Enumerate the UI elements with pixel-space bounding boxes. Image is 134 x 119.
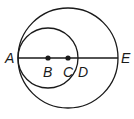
point-c-dot <box>65 55 70 60</box>
geometry-diagram: A B C D E <box>0 0 134 119</box>
point-b-dot <box>45 55 50 60</box>
label-e: E <box>121 50 131 66</box>
label-c: C <box>63 64 74 80</box>
label-d: D <box>78 64 88 80</box>
label-a: A <box>4 50 14 66</box>
label-b: B <box>43 64 52 80</box>
